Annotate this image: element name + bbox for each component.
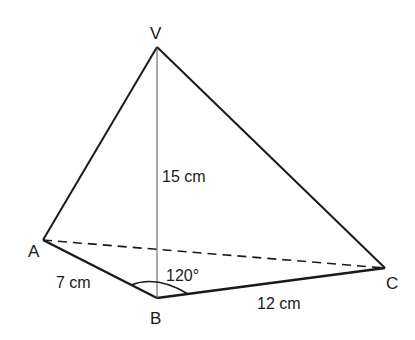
vertex-label-C: C xyxy=(386,274,398,293)
measure-angle-ABC: 120° xyxy=(166,267,199,284)
vertex-label-B: B xyxy=(150,309,161,328)
pyramid-diagram: V A B C 15 cm 7 cm 12 cm 120° xyxy=(0,0,415,340)
edge-VA xyxy=(43,47,157,240)
measure-AB: 7 cm xyxy=(56,274,91,291)
measure-BC: 12 cm xyxy=(257,295,301,312)
measure-VB: 15 cm xyxy=(162,168,206,185)
edge-VC xyxy=(157,47,385,268)
vertex-label-V: V xyxy=(150,24,162,43)
vertex-label-A: A xyxy=(28,242,40,261)
edge-AC-hidden xyxy=(43,240,385,268)
